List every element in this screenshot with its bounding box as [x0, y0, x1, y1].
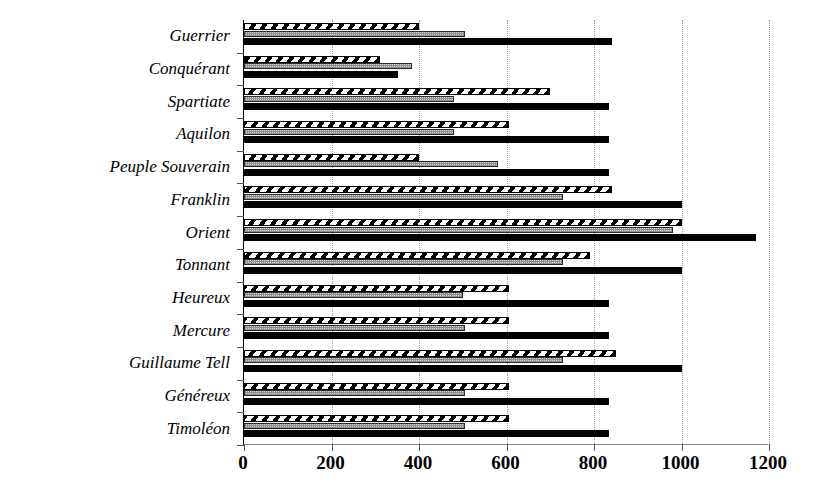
- bar-group: [244, 53, 768, 86]
- plot-area: [243, 20, 768, 445]
- bar-series-1: [244, 285, 509, 292]
- bar-series-2: [244, 259, 563, 265]
- category-label: Heureux: [172, 289, 230, 306]
- y-tick: [237, 183, 244, 184]
- bar-series-1: [244, 252, 590, 259]
- bar-series-2: [244, 390, 465, 396]
- x-tick-400: [419, 444, 420, 451]
- bar-group: [244, 85, 768, 118]
- bar-group: [244, 412, 768, 445]
- bar-series-2: [244, 227, 673, 233]
- bar-series-3: [244, 398, 609, 405]
- bar-series-2: [244, 325, 465, 331]
- x-tick-label: 0: [238, 452, 248, 474]
- category-label: Spartiate: [168, 93, 230, 110]
- y-tick: [237, 445, 244, 446]
- bar-series-1: [244, 317, 509, 324]
- bar-series-3: [244, 267, 682, 274]
- bar-series-2: [244, 423, 465, 429]
- category-label: Franklin: [171, 191, 231, 208]
- category-label: Généreux: [165, 387, 230, 404]
- bar-group: [244, 347, 768, 380]
- bar-series-2: [244, 63, 412, 69]
- bar-series-3: [244, 169, 609, 176]
- bar-series-1: [244, 121, 509, 128]
- category-label: Guillaume Tell: [129, 354, 230, 371]
- bar-series-1: [244, 350, 616, 357]
- bar-group: [244, 249, 768, 282]
- bar-group: [244, 282, 768, 315]
- category-label: Timoléon: [167, 420, 230, 437]
- x-tick-label: 1000: [662, 452, 700, 474]
- bar-series-3: [244, 300, 609, 307]
- y-tick: [237, 151, 244, 152]
- category-label: Conquérant: [149, 60, 230, 77]
- x-tick-label: 400: [404, 452, 433, 474]
- bar-group: [244, 216, 768, 249]
- bar-series-1: [244, 88, 550, 95]
- y-tick: [237, 380, 244, 381]
- bar-series-3: [244, 38, 612, 45]
- bar-series-1: [244, 23, 419, 30]
- y-tick: [237, 282, 244, 283]
- bar-series-3: [244, 103, 609, 110]
- x-tick-0: [244, 444, 245, 451]
- category-label: Tonnant: [175, 256, 230, 273]
- y-tick: [237, 347, 244, 348]
- x-tick-1000: [682, 444, 683, 451]
- category-label: Aquilon: [176, 125, 230, 142]
- bar-series-2: [244, 96, 454, 102]
- bar-series-1: [244, 415, 509, 422]
- y-tick: [237, 314, 244, 315]
- x-tick-200: [332, 444, 333, 451]
- y-tick: [237, 85, 244, 86]
- bar-group: [244, 118, 768, 151]
- y-tick: [237, 118, 244, 119]
- bar-series-1: [244, 186, 612, 193]
- bar-series-3: [244, 430, 609, 437]
- bar-series-2: [244, 194, 563, 200]
- category-label: Peuple Souverain: [110, 158, 230, 175]
- category-label: Orient: [186, 224, 230, 241]
- x-tick-label: 800: [579, 452, 608, 474]
- x-tick-label: 1200: [749, 452, 787, 474]
- bar-series-2: [244, 129, 454, 135]
- bar-group: [244, 20, 768, 53]
- bar-group: [244, 183, 768, 216]
- bar-series-2: [244, 31, 465, 37]
- bar-group: [244, 151, 768, 184]
- bar-series-3: [244, 136, 609, 143]
- value-axis-labels: 020040060080010001200: [243, 452, 768, 482]
- y-tick: [237, 216, 244, 217]
- x-tick-1200: [769, 444, 770, 451]
- bar-series-2: [244, 161, 498, 167]
- bar-series-3: [244, 332, 609, 339]
- bar-series-1: [244, 154, 419, 161]
- x-tick-800: [594, 444, 595, 451]
- bar-series-1: [244, 383, 509, 390]
- y-tick: [237, 249, 244, 250]
- x-tick-600: [507, 444, 508, 451]
- bar-series-1: [244, 56, 380, 63]
- category-label: Mercure: [173, 322, 230, 339]
- gridline-1200: [769, 20, 770, 444]
- x-tick-label: 600: [491, 452, 520, 474]
- bar-series-2: [244, 357, 563, 363]
- bar-series-3: [244, 201, 682, 208]
- bar-series-3: [244, 234, 756, 241]
- category-label: Guerrier: [170, 27, 230, 44]
- bar-chart: GuerrierConquérantSpartiateAquilonPeuple…: [0, 0, 834, 502]
- bar-group: [244, 314, 768, 347]
- bar-series-2: [244, 292, 463, 298]
- bar-group: [244, 380, 768, 413]
- bar-series-3: [244, 71, 398, 78]
- bar-series-3: [244, 365, 682, 372]
- y-tick: [237, 53, 244, 54]
- bar-series-1: [244, 219, 682, 226]
- y-tick: [237, 412, 244, 413]
- x-tick-label: 200: [316, 452, 345, 474]
- category-axis-labels: GuerrierConquérantSpartiateAquilonPeuple…: [0, 20, 236, 445]
